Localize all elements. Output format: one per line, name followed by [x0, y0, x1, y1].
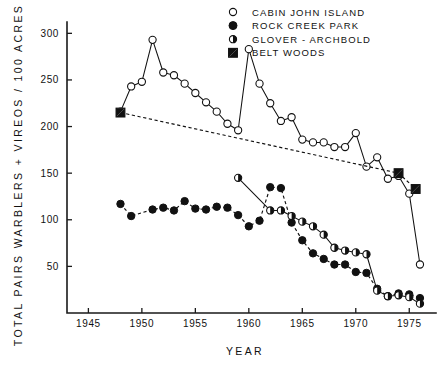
series-0	[117, 36, 424, 268]
x-tick-label: 1955	[183, 318, 208, 329]
data-point-filled-circle	[149, 206, 156, 213]
legend-item: BELT WOODS	[229, 47, 326, 58]
data-point-half-circle	[395, 292, 402, 299]
legend-item: GLOVER - ARCHBOLD	[229, 34, 371, 45]
data-point-half-circle	[341, 247, 348, 254]
data-point-filled-circle	[229, 22, 237, 30]
data-point-half-square	[411, 185, 420, 194]
data-point-open-circle	[299, 136, 306, 143]
data-point-half-circle	[320, 231, 327, 238]
data-point-half-circle	[288, 212, 295, 219]
legend-label: GLOVER - ARCHBOLD	[252, 34, 371, 45]
data-point-filled-circle	[192, 205, 199, 212]
y-axis-title: TOTAL PAIRS WARBLERS + VIREOS / 100 ACRE…	[12, 4, 24, 346]
data-point-filled-circle	[277, 184, 284, 191]
data-point-open-circle	[224, 120, 231, 127]
series-3	[116, 108, 420, 193]
series-line	[238, 178, 420, 304]
data-point-filled-circle	[181, 197, 188, 204]
data-point-open-circle	[416, 261, 423, 268]
data-point-half-circle	[299, 218, 306, 225]
y-tick-label: 200	[41, 121, 60, 132]
data-point-filled-circle	[245, 223, 252, 230]
x-tick-label: 1950	[130, 318, 155, 329]
data-point-filled-circle	[160, 204, 167, 211]
y-tick-label: 100	[41, 214, 60, 225]
y-axis-tick-labels: 50100150200250300	[41, 28, 60, 272]
data-point-filled-circle	[202, 206, 209, 213]
data-point-filled-circle	[256, 217, 263, 224]
data-point-filled-circle	[363, 269, 370, 276]
data-point-half-circle	[352, 249, 359, 256]
data-point-half-circle	[229, 36, 236, 43]
legend-label: CABIN JOHN ISLAND	[252, 7, 365, 18]
data-point-open-circle	[128, 83, 135, 90]
data-point-half-circle	[267, 207, 274, 214]
data-point-open-circle	[229, 8, 236, 15]
data-point-open-circle	[320, 139, 327, 146]
data-point-half-circle	[363, 251, 370, 258]
data-point-open-circle	[341, 143, 348, 150]
axis-lines	[67, 22, 436, 313]
data-point-open-circle	[235, 127, 242, 134]
y-tick-label: 150	[41, 168, 60, 179]
data-point-open-circle	[213, 108, 220, 115]
legend-label: ROCK CREEK PARK	[252, 20, 359, 31]
chart-figure: 1945195019551960196519701975 50100150200…	[0, 0, 445, 368]
data-point-open-circle	[309, 139, 316, 146]
data-point-open-circle	[149, 36, 156, 43]
legend-item: ROCK CREEK PARK	[229, 20, 359, 31]
data-point-open-circle	[277, 117, 284, 124]
data-point-open-circle	[256, 80, 263, 87]
data-point-filled-circle	[117, 200, 124, 207]
chart-canvas: 1945195019551960196519701975 50100150200…	[0, 0, 445, 368]
data-point-open-circle	[160, 69, 167, 76]
x-tick-label: 1965	[290, 318, 315, 329]
legend-label: BELT WOODS	[252, 47, 325, 58]
data-point-open-circle	[267, 100, 274, 107]
data-point-filled-circle	[331, 261, 338, 268]
series-line	[120, 113, 415, 189]
data-point-half-square	[394, 169, 403, 178]
data-point-filled-circle	[213, 203, 220, 210]
data-point-open-circle	[170, 72, 177, 79]
x-tick-label: 1970	[343, 318, 368, 329]
data-point-half-square	[229, 48, 238, 57]
data-point-filled-circle	[352, 268, 359, 275]
data-point-half-circle	[331, 244, 338, 251]
data-point-half-circle	[406, 294, 413, 301]
data-point-half-circle	[309, 223, 316, 230]
data-point-filled-circle	[224, 204, 231, 211]
x-tick-label: 1960	[236, 318, 261, 329]
data-point-half-circle	[374, 287, 381, 294]
data-point-half-circle	[277, 207, 284, 214]
x-tick-label: 1975	[397, 318, 422, 329]
series-2	[235, 174, 424, 307]
data-series-layer	[116, 36, 424, 307]
data-point-filled-circle	[320, 255, 327, 262]
data-point-open-circle	[181, 80, 188, 87]
data-point-filled-circle	[309, 250, 316, 257]
data-point-open-circle	[138, 78, 145, 85]
data-point-filled-circle	[170, 207, 177, 214]
x-tick-label: 1945	[76, 318, 101, 329]
series-1	[117, 183, 424, 301]
data-point-filled-circle	[299, 237, 306, 244]
data-point-half-circle	[235, 174, 242, 181]
data-point-open-circle	[352, 129, 359, 136]
data-point-open-circle	[202, 99, 209, 106]
data-point-open-circle	[384, 175, 391, 182]
data-point-half-circle	[416, 300, 423, 307]
x-axis-title: YEAR	[226, 345, 264, 357]
data-point-filled-circle	[341, 261, 348, 268]
data-point-filled-circle	[127, 212, 134, 219]
x-axis-tick-labels: 1945195019551960196519701975	[76, 318, 422, 329]
series-line	[120, 187, 419, 298]
data-point-open-circle	[374, 154, 381, 161]
data-point-open-circle	[192, 89, 199, 96]
y-tick-label: 300	[41, 28, 60, 39]
data-point-half-square	[116, 108, 125, 117]
data-point-open-circle	[331, 143, 338, 150]
data-point-filled-circle	[267, 183, 274, 190]
legend-item: CABIN JOHN ISLAND	[229, 7, 365, 18]
